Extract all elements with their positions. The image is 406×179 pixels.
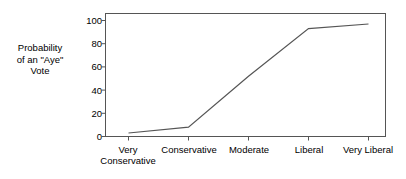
- x-axis-tick-labels: Very Conservative Conservative Moderate …: [0, 0, 406, 179]
- x-tick-label-very-liberal-line-1: Very Liberal: [343, 144, 393, 155]
- x-tick-label-conservative-line-1: Conservative: [161, 144, 216, 155]
- x-tick-label-very-liberal: Very Liberal: [343, 144, 393, 155]
- x-tick-label-very-conservative: Very Conservative: [100, 144, 155, 166]
- x-tick-label-liberal-line-1: Liberal: [295, 144, 324, 155]
- x-tick-label-very-conservative-line-2: Conservative: [100, 155, 155, 166]
- x-tick-label-moderate-line-1: Moderate: [229, 144, 269, 155]
- x-tick-label-moderate: Moderate: [229, 144, 269, 155]
- chart-figure: Probability of an "Aye" Vote 100 80 60 4…: [0, 0, 406, 179]
- x-tick-label-very-conservative-line-1: Very: [100, 144, 155, 155]
- x-tick-label-liberal: Liberal: [295, 144, 324, 155]
- x-tick-label-conservative: Conservative: [161, 144, 216, 155]
